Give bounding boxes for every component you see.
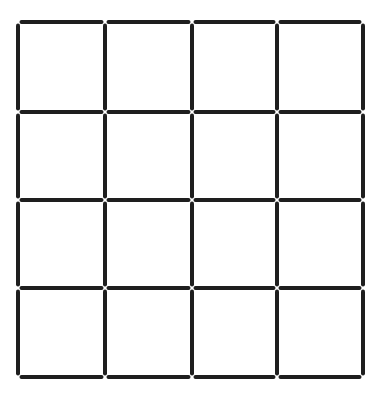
grid-cell-r1-c2 — [105, 22, 192, 112]
grid-cell-r3-c3 — [192, 200, 277, 288]
four-by-four-grid — [0, 0, 385, 393]
grid-cell-r2-c3 — [192, 112, 277, 200]
grid-cell-r3-c4 — [277, 200, 363, 288]
grid-cell-r4-c1 — [18, 288, 105, 377]
grid-cell-r1-c1 — [18, 22, 105, 112]
grid-cell-r4-c3 — [192, 288, 277, 377]
grid-cell-r2-c4 — [277, 112, 363, 200]
grid-cell-r1-c3 — [192, 22, 277, 112]
grid-cell-r3-c2 — [105, 200, 192, 288]
grid-cell-r2-c2 — [105, 112, 192, 200]
grid-cell-r4-c2 — [105, 288, 192, 377]
grid-cell-r1-c4 — [277, 22, 363, 112]
grid-cell-r4-c4 — [277, 288, 363, 377]
grid-cell-r3-c1 — [18, 200, 105, 288]
grid-cell-r2-c1 — [18, 112, 105, 200]
